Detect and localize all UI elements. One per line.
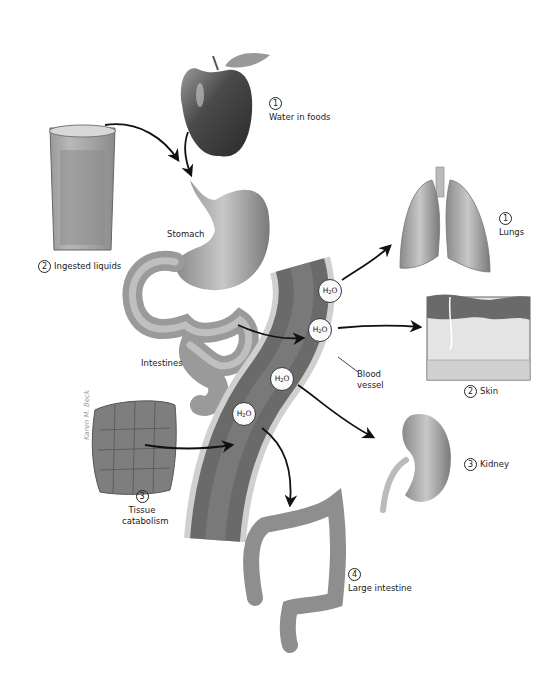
large-intestine-illustration: [251, 503, 338, 645]
number-badge: 3: [136, 490, 149, 503]
number-badge: 2: [464, 385, 477, 398]
h2o-molecule: H2O: [270, 367, 294, 391]
kidney-illustration: [383, 414, 451, 510]
label-skin: 2Skin: [464, 385, 498, 398]
label-ingested-liquids: 2Ingested liquids: [38, 260, 121, 273]
skin-cross-section-illustration: [427, 295, 530, 380]
number-badge: 3: [464, 458, 477, 471]
apple-illustration: [181, 53, 270, 157]
label-water-in-foods: 1 Water in foods: [269, 97, 331, 123]
label-blood-vessel: Blood vessel: [357, 369, 384, 391]
label-stomach: Stomach: [167, 229, 204, 240]
lungs-illustration: [400, 167, 490, 272]
h2o-molecule: H2O: [318, 279, 342, 303]
number-badge: 4: [348, 568, 361, 581]
h2o-molecule: H2O: [232, 402, 256, 426]
label-large-intestine: 4 Large intestine: [348, 568, 412, 594]
number-badge: 2: [38, 260, 51, 273]
label-lungs: 1 Lungs: [499, 212, 524, 238]
number-badge: 1: [269, 97, 282, 110]
h2o-molecule: H2O: [308, 318, 332, 342]
label-tissue-catabolism: 3 Tissue catabolism: [122, 490, 162, 527]
glass-of-water-illustration: [50, 125, 116, 250]
number-badge: 1: [499, 212, 512, 225]
label-intestines: Intestines: [141, 358, 183, 369]
artist-signature: Karen M. Beck: [82, 390, 93, 440]
label-kidney: 3Kidney: [464, 458, 509, 471]
